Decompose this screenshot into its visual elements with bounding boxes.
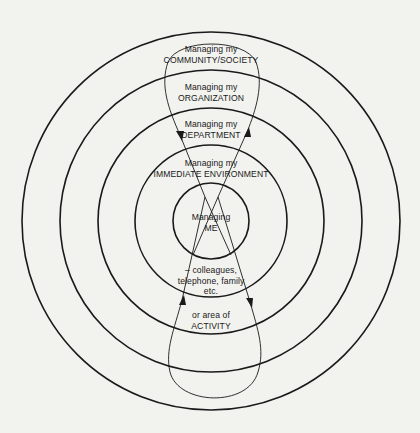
label-line: or area of	[131, 310, 291, 321]
label-line: telephone, family	[131, 276, 291, 287]
label-community-society: Managing my COMMUNITY/SOCIETY	[131, 44, 291, 65]
label-line: Managing my	[131, 119, 291, 130]
label-department: Managing my DEPARTMENT	[131, 119, 291, 140]
label-line: COMMUNITY/SOCIETY	[131, 55, 291, 66]
label-line: IMMEDIATE ENVIRONMENT	[131, 169, 291, 180]
label-line: Managing my	[131, 158, 291, 169]
label-line: ME	[131, 223, 291, 234]
label-line: ACTIVITY	[131, 321, 291, 332]
label-line: ORGANIZATION	[131, 93, 291, 104]
label-line: DEPARTMENT	[131, 130, 291, 141]
note-colleagues: – colleagues, telephone, family etc.	[131, 265, 291, 297]
label-line: – colleagues,	[131, 265, 291, 276]
label-line: Managing my	[131, 44, 291, 55]
label-organization: Managing my ORGANIZATION	[131, 82, 291, 103]
label-immediate-environment: Managing my IMMEDIATE ENVIRONMENT	[131, 158, 291, 179]
label-line: Managing my	[131, 82, 291, 93]
label-line: etc.	[131, 286, 291, 297]
arrow-down-right-lower-icon	[246, 298, 253, 308]
note-area-of-activity: or area of ACTIVITY	[131, 310, 291, 331]
label-line: Managing	[131, 212, 291, 223]
label-me: Managing ME	[131, 212, 291, 233]
